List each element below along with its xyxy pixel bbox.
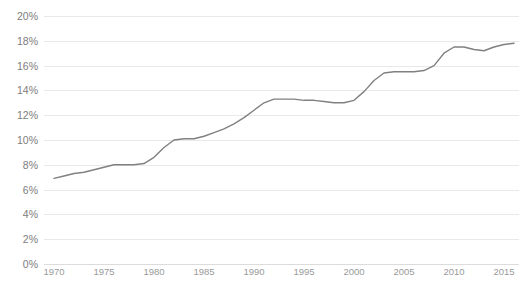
x-axis-tick-label: 2015 — [493, 266, 514, 277]
y-axis-tick-label: 10% — [0, 134, 38, 146]
y-axis-tick-label: 20% — [0, 10, 38, 22]
x-axis-tick-label: 1975 — [93, 266, 114, 277]
x-axis-tick-label: 1985 — [193, 266, 214, 277]
y-axis-tick-label: 4% — [0, 208, 38, 220]
y-axis-tick-label: 2% — [0, 233, 38, 245]
x-axis-labels: 1970197519801985199019952000200520102015 — [0, 266, 527, 286]
x-axis-tick-label: 2000 — [343, 266, 364, 277]
x-axis-tick-label: 1990 — [243, 266, 264, 277]
series-line — [44, 16, 519, 264]
y-axis-tick-label: 14% — [0, 84, 38, 96]
x-axis-tick-label: 1980 — [143, 266, 164, 277]
y-axis-labels: 20%18%16%14%12%10%8%6%4%2%0% — [0, 16, 38, 264]
y-axis-tick-label: 16% — [0, 60, 38, 72]
y-axis-tick-label: 18% — [0, 35, 38, 47]
y-axis-tick-label: 8% — [0, 159, 38, 171]
y-axis-tick-label: 12% — [0, 109, 38, 121]
series-polyline — [54, 43, 514, 178]
x-axis-tick-label: 1970 — [43, 266, 64, 277]
x-axis-tick-label: 2005 — [393, 266, 414, 277]
x-axis-tick-label: 2010 — [443, 266, 464, 277]
y-axis-tick-label: 6% — [0, 184, 38, 196]
x-axis-tick-label: 1995 — [293, 266, 314, 277]
line-chart: 20%18%16%14%12%10%8%6%4%2%0% 19701975198… — [0, 0, 527, 288]
x-axis-line — [44, 264, 519, 265]
plot-area — [44, 16, 519, 264]
